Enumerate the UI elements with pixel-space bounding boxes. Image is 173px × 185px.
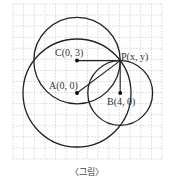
dashed-grid bbox=[13, 4, 162, 159]
circles-group bbox=[23, 17, 153, 147]
point-c-dot bbox=[75, 59, 79, 63]
segment-ap bbox=[77, 61, 120, 93]
point-label-b: B(4, 0) bbox=[107, 96, 135, 108]
point-label-a: A(0, 0) bbox=[49, 80, 78, 92]
point-a-dot bbox=[75, 91, 79, 95]
point-label-c: C(0, 3) bbox=[55, 47, 83, 59]
geometry-diagram: C(0, 3) A(0, 0) B(4, 0) P(x, y) bbox=[0, 0, 173, 185]
point-b-dot bbox=[118, 91, 122, 95]
figure-caption: 〈그림〉 bbox=[0, 165, 173, 178]
point-label-p: P(x, y) bbox=[121, 51, 148, 63]
segments-group bbox=[77, 61, 120, 93]
